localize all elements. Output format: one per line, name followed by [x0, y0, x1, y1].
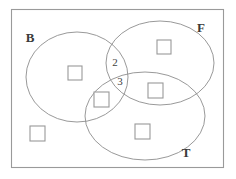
set-label-t: T: [182, 145, 191, 160]
venn-diagram-figure: B F T 2 3: [0, 0, 236, 179]
set-label-b: B: [26, 30, 35, 45]
region-count-b-f-t: 3: [117, 75, 123, 87]
element-square-b-t: [94, 92, 109, 107]
venn-diagram-canvas: B F T 2 3: [0, 0, 236, 179]
element-square-f-only: [157, 40, 171, 54]
element-square-t-only: [135, 124, 150, 139]
region-count-b-f: 2: [112, 56, 118, 68]
element-square-outside: [30, 126, 45, 141]
set-label-f: F: [197, 20, 205, 35]
element-square-b-only: [68, 66, 82, 80]
element-square-f-t: [148, 83, 163, 98]
